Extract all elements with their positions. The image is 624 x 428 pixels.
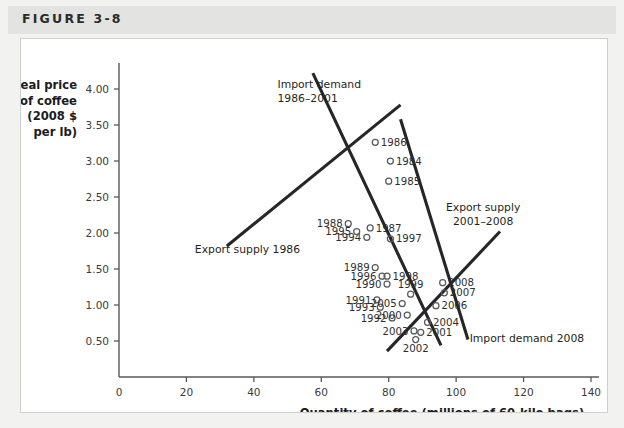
y-tick-label: 2.50: [86, 191, 109, 203]
data-point-2006: [433, 303, 439, 309]
y-tick-label: 1.50: [86, 263, 109, 275]
x-tick-label: 140: [581, 386, 601, 398]
figure-label: FIGURE 3-8: [22, 11, 123, 26]
data-point-label-2003: 2003: [383, 326, 409, 337]
data-point-label-2008: 2008: [448, 277, 474, 288]
y-tick-label: 3.00: [86, 155, 109, 167]
data-point-1984: [387, 158, 393, 164]
y-axis-title: Real price: [21, 78, 77, 92]
y-axis-title: per lb): [34, 125, 78, 139]
y-tick-label: 4.00: [86, 83, 109, 95]
data-point-label-2007: 2007: [450, 287, 476, 298]
y-tick-label: 1.00: [86, 299, 109, 311]
data-point-label-2006: 2006: [441, 300, 467, 311]
data-point-1986: [372, 139, 378, 145]
data-point-label-1986: 1986: [381, 137, 407, 148]
y-tick-label: 0.50: [86, 335, 109, 347]
x-tick-label: 20: [180, 386, 193, 398]
y-axis-title: of coffee: [21, 94, 77, 108]
y-tick-label: 3.50: [86, 119, 109, 131]
data-point-1987: [367, 225, 373, 231]
annotation-import-demand-1986-2001: Import demand: [277, 78, 361, 91]
data-point-label-2000: 2000: [376, 310, 402, 321]
figure-container: FIGURE 3-8 0204060801001201400.501.001.5…: [0, 0, 624, 428]
data-point-1985: [386, 178, 392, 184]
x-tick-label: 120: [514, 386, 534, 398]
x-tick-label: 40: [247, 386, 260, 398]
annotation-export-supply-2001-2008: 2001–2008: [453, 215, 513, 228]
x-tick-label: 100: [446, 386, 466, 398]
x-axis-title: Quantity of coffee (millions of 60-kilo …: [300, 406, 585, 412]
data-point-2005: [399, 301, 405, 307]
annotation-import-demand-2008: Import demand 2008: [470, 332, 585, 345]
data-point-label-2005: 2005: [371, 298, 397, 309]
data-point-label-1984: 1984: [396, 156, 422, 167]
data-point-label-2001: 2001: [426, 327, 452, 338]
data-point-label-2002: 2002: [403, 343, 429, 354]
data-point-2001: [418, 329, 424, 335]
data-point-label-1997: 1997: [396, 233, 422, 244]
data-point-2003: [411, 328, 417, 334]
x-tick-label: 0: [116, 386, 123, 398]
data-point-label-1987: 1987: [376, 223, 402, 234]
data-point-2008: [440, 280, 446, 286]
data-point-label-1995: 1995: [325, 226, 351, 237]
data-point-1999: [408, 291, 414, 297]
x-tick-label: 60: [315, 386, 328, 398]
data-point-label-2004: 2004: [433, 317, 459, 328]
data-point-label-1996: 1996: [351, 271, 377, 282]
data-point-label-1999: 1999: [398, 279, 424, 290]
data-point-label-1985: 1985: [394, 176, 420, 187]
coffee-scatter-chart: 0204060801001201400.501.001.502.002.503.…: [21, 39, 607, 412]
data-points-group: 1984198519861987198819891990199119921993…: [317, 137, 476, 354]
y-axis-title: (2008 $: [27, 109, 77, 123]
data-point-2000: [404, 312, 410, 318]
x-tick-label: 80: [382, 386, 395, 398]
plot-plate: 0204060801001201400.501.001.502.002.503.…: [20, 38, 608, 413]
data-point-1990: [384, 281, 390, 287]
y-tick-label: 2.00: [86, 227, 109, 239]
curve-export-supply-1986: [227, 105, 401, 246]
data-point-1989: [372, 265, 378, 271]
annotation-import-demand-1986-2001: 1986–2001: [277, 92, 337, 105]
annotation-export-supply-1986: Export supply 1986: [195, 243, 300, 256]
data-point-1994: [364, 234, 370, 240]
annotation-export-supply-2001-2008: Export supply: [446, 201, 521, 214]
